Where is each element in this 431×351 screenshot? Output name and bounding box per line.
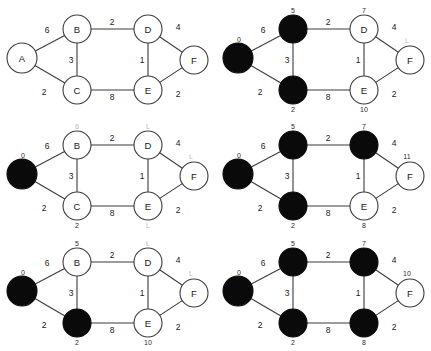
- node-C-settled: [279, 192, 307, 220]
- edge-weight-E-F: 2: [176, 89, 181, 99]
- distance-label-B: 6: [75, 123, 79, 130]
- node-label-F: F: [191, 171, 197, 182]
- edge-A-B: [35, 152, 64, 167]
- node-label-D: D: [145, 24, 152, 35]
- graph-panel-bottom-right: 6232814205278F10: [216, 233, 431, 350]
- edge-weight-A-C: 2: [42, 203, 47, 213]
- distance-label-C: 2: [291, 222, 295, 229]
- distance-label-A: 0: [237, 269, 241, 276]
- edge-A-B: [251, 269, 280, 284]
- distance-label-E: 10: [360, 106, 368, 113]
- distance-label-E: 8: [362, 339, 366, 346]
- edge-weight-A-B: 6: [45, 258, 50, 268]
- node-label-E: E: [361, 85, 367, 96]
- distance-label-B: 5: [291, 240, 295, 247]
- node-D-settled: [350, 248, 378, 276]
- edge-D-F: [376, 153, 399, 168]
- distance-label-D: 7: [362, 123, 366, 130]
- distance-label-E: 8: [362, 222, 366, 229]
- edge-weight-A-B: 6: [261, 258, 266, 268]
- edge-A-C: [35, 66, 65, 83]
- edge-weight-D-F: 4: [392, 138, 397, 148]
- graph-panel-bottom-left: 623281420B52DLE10FL: [0, 233, 215, 350]
- edge-weight-E-F: 2: [176, 205, 181, 215]
- node-label-D: D: [145, 257, 152, 268]
- distance-label-A: 0: [237, 152, 241, 159]
- edge-weight-C-E: 8: [110, 92, 115, 102]
- edge-weight-C-E: 8: [326, 325, 331, 335]
- edge-E-F: [376, 301, 399, 316]
- edge-weight-A-C: 2: [42, 320, 47, 330]
- edge-E-F: [160, 68, 183, 83]
- edge-weight-B-D: 2: [110, 133, 115, 143]
- edge-weight-A-B: 6: [261, 141, 266, 151]
- distance-label-B: 5: [291, 123, 295, 130]
- node-label-F: F: [407, 288, 413, 299]
- distance-label-E: 10: [144, 339, 152, 346]
- edge-A-C: [251, 299, 281, 316]
- node-label-B: B: [74, 140, 80, 151]
- edge-E-F: [376, 68, 399, 83]
- node-A-settled: [223, 276, 253, 306]
- distance-label-C: 2: [291, 339, 295, 346]
- edge-weight-B-D: 2: [110, 250, 115, 260]
- edge-A-B: [251, 36, 280, 51]
- edge-weight-A-C: 2: [258, 203, 263, 213]
- edge-weight-C-E: 8: [326, 208, 331, 218]
- node-label-F: F: [191, 55, 197, 66]
- edge-A-C: [35, 182, 65, 199]
- node-label-E: E: [145, 85, 151, 96]
- edge-weight-A-B: 6: [45, 141, 50, 151]
- edge-A-B: [251, 152, 280, 167]
- edge-weight-E-F: 2: [176, 322, 181, 332]
- node-A-settled: [7, 159, 37, 189]
- edge-weight-D-E: 1: [140, 55, 145, 65]
- edge-weight-D-F: 4: [392, 255, 397, 265]
- edge-A-C: [251, 66, 281, 83]
- node-label-C: C: [74, 201, 81, 212]
- edge-weight-B-C: 3: [285, 288, 290, 298]
- distance-label-B: 5: [75, 240, 79, 247]
- edge-weight-E-F: 2: [392, 205, 397, 215]
- edge-A-B: [35, 269, 64, 284]
- edge-D-F: [160, 153, 183, 168]
- edge-weight-D-F: 4: [176, 255, 181, 265]
- edge-weight-A-C: 2: [258, 320, 263, 330]
- edge-E-F: [160, 184, 183, 199]
- distance-label-A: 0: [21, 269, 25, 276]
- node-label-D: D: [361, 24, 368, 35]
- node-C-settled: [279, 76, 307, 104]
- distance-label-A: 0: [21, 152, 25, 159]
- edge-weight-B-D: 2: [326, 17, 331, 27]
- edge-weight-D-E: 1: [356, 55, 361, 65]
- graph-panel-top-right: 62328142052D7E10FL: [216, 0, 431, 117]
- edge-weight-B-C: 3: [285, 55, 290, 65]
- node-label-E: E: [145, 318, 151, 329]
- graph-panel-middle-left: 623281420B6C2DLELFL: [0, 116, 215, 233]
- distance-label-C: 2: [291, 106, 295, 113]
- edge-weight-E-F: 2: [392, 89, 397, 99]
- distance-label-F: L: [189, 153, 193, 160]
- edge-weight-B-D: 2: [326, 133, 331, 143]
- node-B-settled: [279, 15, 307, 43]
- dijkstra-progression-figure: 62328142ABCDEF62328142052D7E10FL62328142…: [0, 0, 431, 351]
- node-label-F: F: [191, 288, 197, 299]
- node-D-settled: [350, 131, 378, 159]
- edge-weight-A-C: 2: [42, 87, 47, 97]
- distance-label-F: 11: [403, 153, 410, 160]
- edge-weight-B-C: 3: [69, 288, 74, 298]
- node-label-E: E: [361, 201, 367, 212]
- node-C-settled: [279, 309, 307, 337]
- node-label-E: E: [145, 201, 151, 212]
- edge-weight-B-C: 3: [285, 171, 290, 181]
- edge-weight-A-B: 6: [261, 25, 266, 35]
- edge-weight-D-F: 4: [176, 138, 181, 148]
- distance-label-B: 5: [291, 7, 295, 14]
- distance-label-F: 10: [403, 270, 411, 277]
- distance-label-D: 7: [362, 7, 366, 14]
- edge-weight-D-F: 4: [176, 22, 181, 32]
- edge-A-B: [35, 36, 64, 51]
- node-A-settled: [7, 276, 37, 306]
- edge-weight-A-C: 2: [258, 87, 263, 97]
- node-B-settled: [279, 131, 307, 159]
